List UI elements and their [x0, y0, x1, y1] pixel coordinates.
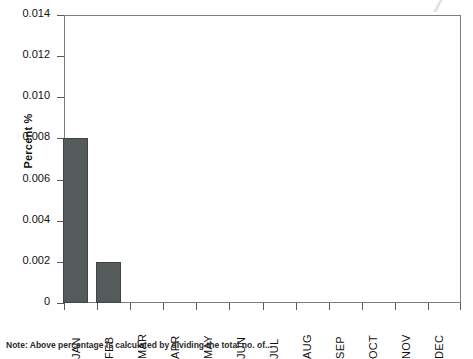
- y-axis-tick-mark: [57, 97, 64, 98]
- x-axis-labels: JANFEBMARAPRMAYJUNJULAUGSEPOCTNOVDEC: [64, 303, 461, 343]
- x-axis-label-jun: JUN: [235, 315, 247, 359]
- chart-note: Note: Above percentage is calculated by …: [6, 340, 471, 350]
- scan-artifact: [408, 0, 468, 12]
- x-axis-label-mar: MAR: [136, 315, 148, 359]
- y-axis-tick-mark: [57, 15, 64, 16]
- y-axis-tick-label: 0.010: [22, 89, 50, 101]
- x-axis-label-may: MAY: [202, 315, 214, 359]
- x-axis-label-dec: DEC: [433, 315, 445, 359]
- x-axis-label-apr: APR: [169, 315, 181, 359]
- y-axis-tick-label: 0.012: [22, 48, 50, 60]
- x-axis-label-aug: AUG: [301, 315, 313, 359]
- x-axis-label-nov: NOV: [400, 315, 412, 359]
- x-axis-label-feb: FEB: [103, 315, 115, 359]
- y-axis-tick-label: 0.014: [22, 7, 50, 19]
- x-axis-label-sep: SEP: [334, 315, 346, 359]
- bar-jan: [63, 138, 88, 303]
- x-axis-label-jan: JAN: [70, 315, 82, 359]
- y-axis-tick-label: 0.006: [22, 172, 50, 184]
- y-axis-tick-label: 0.002: [22, 254, 50, 266]
- y-axis-tick-mark: [57, 303, 64, 304]
- y-axis-tick-label: 0.008: [22, 130, 50, 142]
- x-axis-label-oct: OCT: [367, 315, 379, 359]
- bar-feb: [96, 262, 121, 303]
- y-axis-tick-label: 0: [44, 295, 50, 307]
- y-axis-tick-label: 0.004: [22, 213, 50, 225]
- x-axis-label-jul: JUL: [268, 315, 280, 359]
- bars-layer: [64, 15, 461, 303]
- y-axis-tick-mark: [57, 56, 64, 57]
